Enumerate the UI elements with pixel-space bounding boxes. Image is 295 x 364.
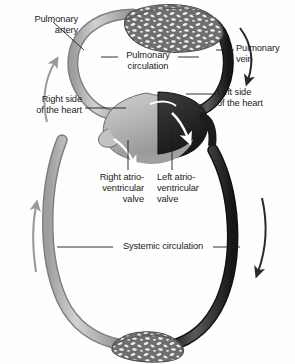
label-pulmonary-vein: Pulmonary vein: [236, 43, 294, 65]
systemic-capillary-bed: [112, 332, 184, 362]
circulation-diagram: Pulmonary artery Pulmonary circulation P…: [0, 0, 295, 364]
label-systemic-circulation: Systemic circulation: [113, 241, 213, 252]
lung-capillary-bed: [125, 5, 223, 53]
label-pulmonary-artery: Pulmonary artery: [4, 14, 78, 36]
systemic-vein-flow-arrow: [33, 206, 36, 272]
systemic-artery-flow-arrow: [258, 198, 265, 272]
systemic-vein-vessel: [48, 140, 122, 345]
label-pulmonary-circulation: Pulmonary circulation: [118, 50, 178, 72]
label-left-side-of-heart: Left side of the heart: [217, 87, 293, 109]
label-left-av-valve: Left atrio- ventricular valve: [157, 172, 215, 206]
label-right-side-of-heart: Right side of the heart: [2, 94, 82, 116]
label-right-av-valve: Right atrio- ventricular valve: [86, 172, 144, 206]
